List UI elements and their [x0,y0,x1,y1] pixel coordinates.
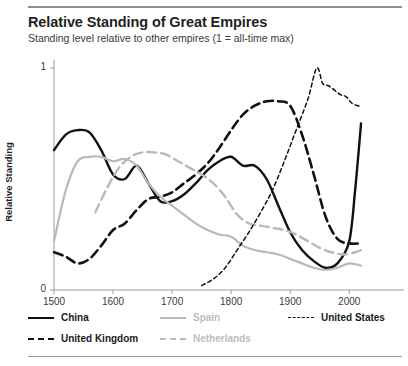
legend-label: Spain [193,312,220,323]
x-tick-1600: 1600 [93,296,133,307]
chart-area: Relative Standing 1 0 150016001700180019… [0,52,408,302]
legend-swatch-dash-black-icon [28,338,54,340]
legend-label: United Kingdom [61,333,138,344]
series-line-spain [54,156,361,270]
legend-item-united-states[interactable]: United States [288,312,400,323]
x-tick-1800: 1800 [211,296,251,307]
legend-label: China [61,312,89,323]
legend-label: United States [321,312,385,323]
page-subtitle: Standing level relative to other empires… [28,32,294,44]
legend-label: Netherlands [193,333,251,344]
legend-item-china[interactable]: China [28,312,160,323]
legend-swatch-solid-gray-icon [160,317,186,319]
x-tick-1900: 1900 [270,296,310,307]
x-tick-1700: 1700 [152,296,192,307]
legend-item-netherlands[interactable]: Netherlands [160,333,288,344]
series-line-united-kingdom [54,101,361,264]
chart-page: Relative Standing of Great Empires Stand… [0,0,408,366]
x-tick-1500: 1500 [34,296,74,307]
chart-legend: ChinaSpainUnited StatesUnited KingdomNet… [0,312,408,356]
legend-item-united-kingdom[interactable]: United Kingdom [28,333,160,344]
x-tick-2000: 2000 [329,296,369,307]
line-plot [0,52,408,302]
legend-swatch-solid-black-icon [28,317,54,319]
page-title: Relative Standing of Great Empires [28,14,267,30]
bottom-divider [28,356,402,357]
top-divider [28,6,402,8]
legend-swatch-fine-dash-black-icon [288,317,314,318]
legend-item-spain[interactable]: Spain [160,312,288,323]
legend-swatch-dash-gray-icon [160,338,186,340]
